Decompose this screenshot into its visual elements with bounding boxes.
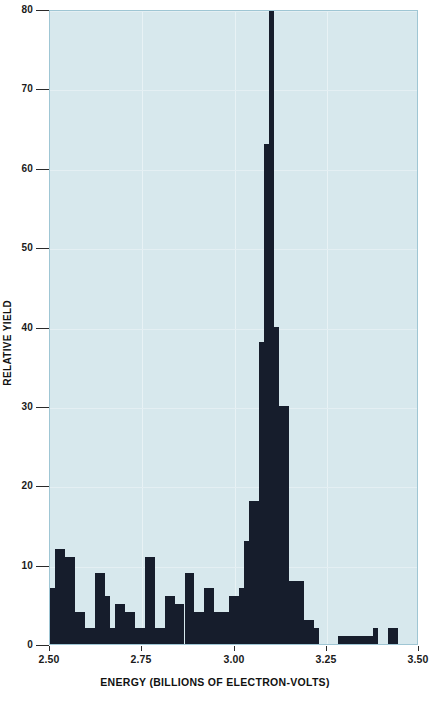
- histogram-bars: [50, 11, 417, 644]
- y-axis-tick: [36, 407, 49, 408]
- x-axis-tick: [418, 646, 419, 651]
- y-axis-tick: [36, 328, 49, 329]
- x-axis-tick-label: 3.00: [223, 653, 244, 665]
- histogram-bar: [314, 628, 319, 644]
- y-axis-tick-label: 80: [21, 5, 33, 15]
- y-axis-tick-label: 50: [21, 243, 33, 253]
- y-axis-title: RELATIVE YIELD: [2, 300, 13, 386]
- y-axis-tick: [36, 566, 49, 567]
- y-axis-tick-label: 70: [21, 84, 33, 94]
- chart-figure: 01020304050607080 2.502.753.003.253.50 R…: [0, 0, 430, 701]
- x-axis-tick: [141, 646, 142, 651]
- x-axis-tick-label: 2.50: [38, 653, 59, 665]
- x-axis-title: ENERGY (BILLIONS OF ELECTRON-VOLTS): [0, 676, 430, 688]
- histogram-bar: [393, 628, 398, 644]
- x-axis-tick-label: 3.25: [315, 653, 336, 665]
- x-axis-tick-label: 3.50: [407, 653, 428, 665]
- y-axis-tick: [36, 89, 49, 90]
- x-axis-tick: [234, 646, 235, 651]
- y-axis-tick-label: 60: [21, 164, 33, 174]
- x-axis-tick: [49, 646, 50, 651]
- y-axis-tick-label: 30: [21, 402, 33, 412]
- y-axis-tick-label: 20: [21, 481, 33, 491]
- y-axis-tick-label: 40: [21, 323, 33, 333]
- x-axis-tick-label: 2.75: [130, 653, 151, 665]
- x-axis-tick: [326, 646, 327, 651]
- y-axis-tick-label: 10: [21, 561, 33, 571]
- y-axis-tick: [36, 10, 49, 11]
- histogram-bar: [373, 628, 378, 644]
- y-axis-tick: [36, 486, 49, 487]
- y-axis-tick: [36, 248, 49, 249]
- y-axis-tick: [36, 169, 49, 170]
- plot-area: [49, 10, 418, 645]
- x-axis: 2.502.753.003.253.50: [0, 646, 430, 676]
